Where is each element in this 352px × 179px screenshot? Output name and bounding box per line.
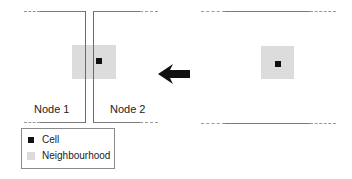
domain-bottom-dashed-left	[201, 123, 225, 124]
node1-top-border	[40, 11, 85, 12]
domain-bottom-border	[225, 123, 310, 124]
node2-bottom-dashed	[140, 122, 158, 123]
arrow-left-icon	[156, 62, 192, 86]
cell-swatch-icon	[28, 137, 34, 143]
cell-marker-split	[96, 58, 102, 64]
node1-label: Node 1	[34, 103, 69, 115]
legend-neighbourhood-label: Neighbourhood	[42, 150, 110, 161]
node2-top-dashed	[140, 11, 158, 12]
node1-bottom-dashed	[24, 122, 40, 123]
legend-item-cell: Cell	[28, 134, 59, 145]
neighbourhood-swatch-icon	[27, 152, 35, 160]
node2-bottom-border	[93, 122, 140, 123]
node1-top-dashed	[24, 11, 40, 12]
domain-bottom-dashed-right	[310, 123, 336, 124]
domain-top-dashed-left	[201, 11, 225, 12]
node1-right-border	[85, 11, 86, 123]
cell-marker	[275, 61, 281, 67]
node1-bottom-border	[40, 122, 85, 123]
domain-top-dashed-right	[310, 11, 336, 12]
neighbourhood-region-split	[72, 45, 116, 79]
node2-left-border	[93, 11, 94, 123]
node2-label: Node 2	[110, 103, 145, 115]
node2-top-border	[93, 11, 140, 12]
legend: Cell Neighbourhood	[21, 128, 115, 169]
legend-item-neighbourhood: Neighbourhood	[28, 150, 110, 161]
legend-cell-label: Cell	[42, 134, 59, 145]
domain-top-border	[225, 11, 310, 12]
